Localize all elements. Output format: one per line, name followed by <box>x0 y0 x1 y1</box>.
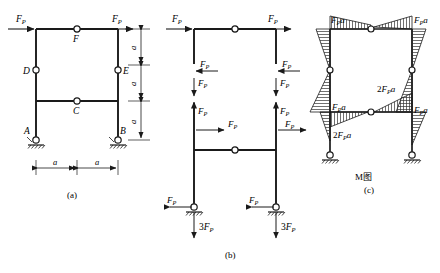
label-node-E: E <box>122 66 129 76</box>
label-dim-a-1: a <box>53 157 57 167</box>
caption-c: (c) <box>364 185 374 195</box>
label-node-C: C <box>73 106 80 116</box>
c-diagram-name: M图 <box>355 172 372 182</box>
c-support-right-pin <box>409 152 415 158</box>
label-dim-a-2: a <box>95 157 99 167</box>
c-hinge-mid <box>368 109 374 115</box>
b-hinge-mid <box>232 147 238 153</box>
c-support-left-pin <box>327 152 333 158</box>
c-label-moment-2FPa-upper: 2FPa <box>377 84 396 95</box>
hinge-D <box>33 67 39 73</box>
support-B-pin <box>115 137 121 143</box>
label-node-B: B <box>120 126 126 136</box>
hinge-F <box>74 26 80 32</box>
engineering-figure: FP FP F D E C A B a a a a a (a) <box>0 0 440 273</box>
label-node-F: F <box>72 34 79 44</box>
label-vdim-a-3: a <box>128 120 138 124</box>
c-label-moment-2FPa-lower: 2FPa <box>333 130 352 141</box>
label-node-A: A <box>23 126 30 136</box>
hinge-C <box>74 98 80 104</box>
label-vdim-a-2: a <box>128 82 138 86</box>
c-hinge-top <box>368 26 374 32</box>
support-A-pin <box>33 137 39 143</box>
caption-a: (a) <box>67 190 77 200</box>
c-hinge-left <box>327 67 333 73</box>
figure-svg: FP FP F D E C A B a a a a a (a) <box>0 0 440 273</box>
c-hinge-right <box>409 67 415 73</box>
canvas-background <box>0 0 440 273</box>
b-hinge-top <box>232 26 238 32</box>
caption-b: (b) <box>225 250 236 260</box>
label-node-D: D <box>22 66 30 76</box>
hinge-E <box>115 67 121 73</box>
label-vdim-a-1: a <box>128 46 138 50</box>
